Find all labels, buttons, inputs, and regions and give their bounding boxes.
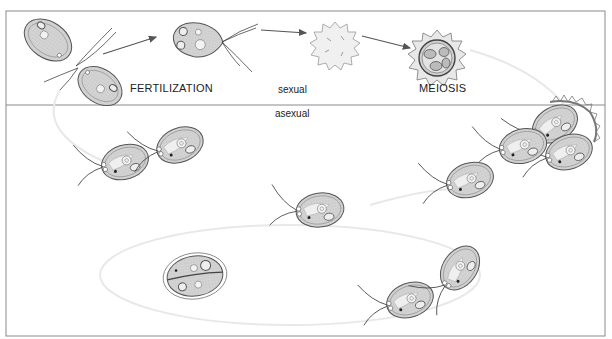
- daughter-cell-left-a: [66, 124, 153, 194]
- gametes-pairing: [16, 10, 129, 113]
- meiosis-label: MEIOSIS: [419, 82, 466, 94]
- fertilization-label: FERTILIZATION: [130, 82, 213, 94]
- daughter-cell-right: [411, 142, 498, 212]
- life-cycle-diagram: [0, 0, 612, 339]
- asexual-label: asexual: [275, 108, 309, 119]
- dividing-cell: [160, 249, 230, 303]
- daughter-cell-bottom-a: [350, 262, 438, 334]
- arrow-fertilization: [103, 37, 156, 54]
- zygospore: [310, 22, 360, 70]
- panel-frame: [6, 11, 605, 336]
- arrow-zygospore: [362, 36, 410, 48]
- zygote-flagellated: [170, 19, 258, 72]
- meiosis-zygospore: [408, 30, 466, 86]
- arrow-zygote: [261, 30, 306, 33]
- sexual-label: sexual: [278, 84, 307, 95]
